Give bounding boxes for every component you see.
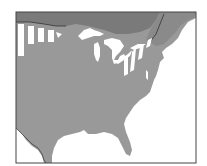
range-map [0, 0, 207, 166]
